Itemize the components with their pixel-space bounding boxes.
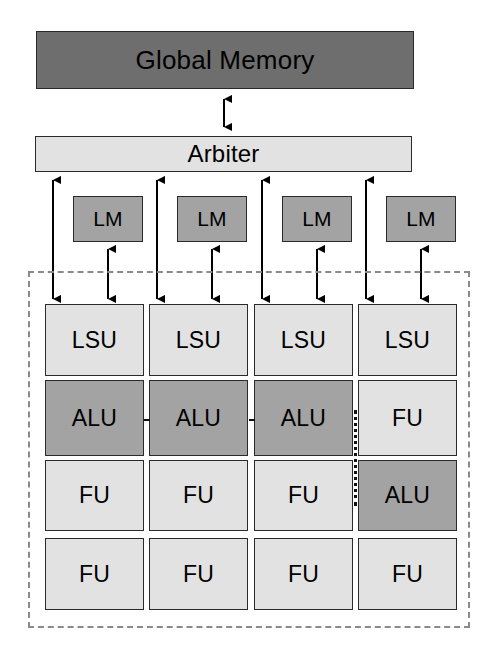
cluster-cell-r1c2: LSU — [149, 304, 248, 376]
global-memory-block: Global Memory — [36, 31, 414, 89]
cluster-cell-r1c3: LSU — [254, 304, 353, 376]
local-memory-block-3: LM — [282, 196, 352, 242]
cluster-cell-r2c1: ALU — [45, 380, 144, 456]
local-memory-block-4: LM — [386, 196, 456, 242]
cluster-cell-r4c4: FU — [358, 538, 457, 610]
cluster-cell-r1c4: LSU — [358, 304, 457, 376]
local-memory-block-1: LM — [73, 196, 143, 242]
cluster-cell-r2c2: ALU — [149, 380, 248, 456]
cluster-cell-r2c4: FU — [358, 380, 457, 456]
cluster-cell-r4c2: FU — [149, 538, 248, 610]
arbiter-block: Arbiter — [35, 136, 412, 172]
alu-link-dash-2 — [249, 419, 255, 421]
local-memory-block-2: LM — [177, 196, 247, 242]
cluster-cell-r4c3: FU — [254, 538, 353, 610]
alu-link-dash-1 — [144, 419, 150, 421]
diagram-canvas: Global Memory Arbiter LM LM LM LM LSU LS… — [0, 0, 498, 665]
cluster-cell-r3c3: FU — [254, 460, 353, 531]
cluster-cell-r4c1: FU — [45, 538, 144, 610]
cluster-cell-r3c2: FU — [149, 460, 248, 531]
column-split-dotted-line — [354, 410, 357, 506]
cluster-cell-r2c3: ALU — [254, 380, 353, 456]
cluster-cell-r3c1: FU — [45, 460, 144, 531]
cluster-cell-r3c4: ALU — [358, 460, 457, 531]
cluster-cell-r1c1: LSU — [45, 304, 144, 376]
